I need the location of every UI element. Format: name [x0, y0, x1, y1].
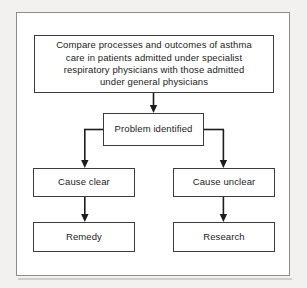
edge-compare-to-problem — [150, 93, 157, 113]
node-research: Research — [173, 222, 275, 252]
node-cause-unclear-label: Cause unclear — [193, 176, 256, 188]
node-remedy: Remedy — [33, 222, 135, 252]
node-research-label: Research — [203, 231, 244, 243]
node-problem-identified-label: Problem identified — [115, 123, 193, 135]
node-cause-clear-label: Cause clear — [58, 176, 110, 188]
node-problem-identified: Problem identified — [103, 113, 204, 146]
edge-cause-clear-to-remedy — [81, 197, 88, 222]
node-compare-label: Compare processes and outcomes of asthma… — [56, 39, 252, 89]
node-remedy-label: Remedy — [66, 231, 102, 243]
edge-problem-to-cause-clear — [81, 130, 103, 169]
flowchart-figure: Compare processes and outcomes of asthma… — [0, 0, 307, 288]
edge-cause-unclear-to-research — [220, 197, 227, 222]
node-cause-unclear: Cause unclear — [173, 168, 275, 197]
node-compare: Compare processes and outcomes of asthma… — [34, 35, 274, 93]
node-cause-clear: Cause clear — [33, 168, 135, 197]
edge-problem-to-cause-unclear — [204, 130, 227, 169]
figure-shadow — [18, 278, 292, 280]
